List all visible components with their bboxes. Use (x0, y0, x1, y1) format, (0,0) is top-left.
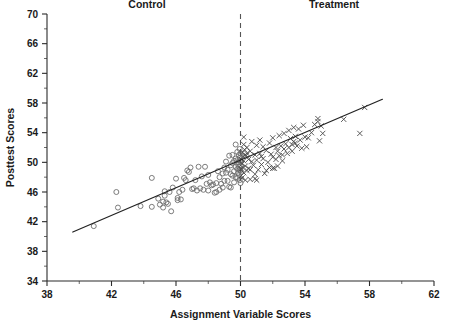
svg-text:42: 42 (106, 289, 118, 300)
svg-text:62: 62 (428, 289, 440, 300)
svg-text:58: 58 (364, 289, 376, 300)
svg-text:46: 46 (27, 187, 39, 198)
svg-text:50: 50 (235, 289, 247, 300)
svg-text:70: 70 (27, 9, 39, 20)
svg-text:62: 62 (27, 68, 39, 79)
series-control-points (91, 142, 243, 229)
regression-fit-line (73, 99, 383, 232)
svg-text:66: 66 (27, 38, 39, 49)
group-annotations: ControlTreatment (128, 0, 359, 10)
y-axis-tick-labels: 34384246505458626670 (27, 9, 39, 287)
scatter-chart-figure: 38424650545862 34384246505458626670 Cont… (0, 0, 458, 328)
chart-canvas: 38424650545862 34384246505458626670 Cont… (0, 0, 458, 328)
svg-text:54: 54 (299, 289, 311, 300)
svg-text:Treatment: Treatment (309, 0, 360, 10)
x-axis-tick-labels: 38424650545862 (41, 289, 440, 300)
svg-text:50: 50 (27, 157, 39, 168)
x-axis-title: Assignment Variable Scores (170, 308, 311, 320)
x-axis-major-ticks (47, 281, 434, 286)
svg-text:46: 46 (170, 289, 182, 300)
series-treatment-points (239, 105, 368, 183)
svg-text:Control: Control (128, 0, 165, 10)
svg-text:54: 54 (27, 127, 39, 138)
svg-text:38: 38 (41, 289, 53, 300)
y-axis-title: Posttest Scores (4, 108, 16, 188)
svg-text:34: 34 (27, 276, 39, 287)
svg-text:58: 58 (27, 98, 39, 109)
svg-text:38: 38 (27, 246, 39, 257)
svg-text:42: 42 (27, 216, 39, 227)
